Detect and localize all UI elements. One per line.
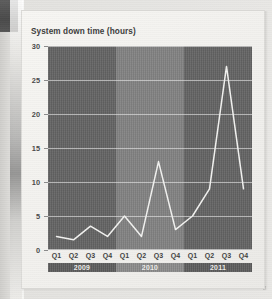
page-scan-background: System down time (hours) 051015202530 Q1… [0, 0, 272, 299]
year-label-2009: 2009 [48, 263, 116, 272]
x-tick-label-9: Q2 [205, 252, 214, 259]
x-tick-label-3: Q4 [103, 252, 112, 259]
y-tick-label-5: 5 [36, 212, 40, 221]
x-tick-label-8: Q1 [188, 252, 197, 259]
y-tick-mark-0 [44, 250, 48, 251]
x-tick-label-5: Q2 [137, 252, 146, 259]
x-tick-label-2: Q3 [86, 252, 95, 259]
y-tick-label-30: 30 [32, 42, 40, 51]
chart-title: System down time (hours) [31, 27, 136, 36]
x-tick-label-11: Q4 [239, 252, 248, 259]
y-axis: 051015202530 [22, 0, 44, 299]
x-tick-label-4: Q1 [120, 252, 129, 259]
series-line-system-down-time [48, 46, 252, 250]
year-label-2010: 2010 [116, 263, 184, 272]
x-tick-label-0: Q1 [52, 252, 61, 259]
x-tick-label-6: Q3 [154, 252, 163, 259]
y-tick-label-0: 0 [36, 246, 40, 255]
y-tick-label-25: 25 [32, 76, 40, 85]
plot-area [48, 46, 252, 250]
y-tick-label-10: 10 [32, 178, 40, 187]
x-tick-label-7: Q4 [171, 252, 180, 259]
x-tick-label-1: Q2 [69, 252, 78, 259]
year-label-2011: 2011 [184, 263, 252, 272]
y-tick-label-15: 15 [32, 144, 40, 153]
x-tick-label-10: Q3 [222, 252, 231, 259]
year-strip: 200920102011 [48, 263, 252, 272]
y-tick-label-20: 20 [32, 110, 40, 119]
